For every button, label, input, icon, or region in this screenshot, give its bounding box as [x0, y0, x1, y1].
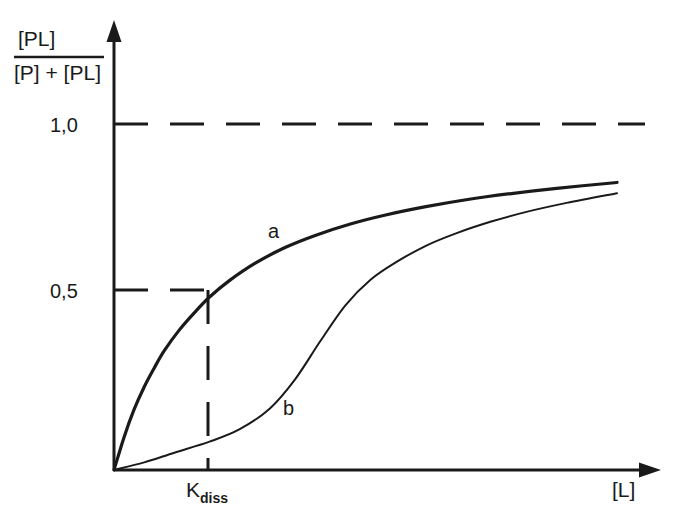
binding-curve-chart: [PL] [P] + [PL] [L] 1,0 0,5 K diss a b [0, 0, 687, 518]
y-axis-label-numerator: [PL] [18, 27, 55, 50]
x-tick-label-kdiss-subscript: diss [200, 490, 228, 506]
x-axis-label: [L] [612, 478, 635, 501]
y-tick-label-0-5: 0,5 [50, 280, 78, 302]
chart-background [0, 0, 687, 518]
x-tick-label-kdiss-main: K [186, 478, 200, 501]
curve-label-b: b [283, 397, 294, 419]
curve-label-a: a [268, 220, 280, 242]
y-tick-label-1-0: 1,0 [50, 114, 78, 136]
y-axis-label-denominator: [P] + [PL] [14, 61, 101, 84]
